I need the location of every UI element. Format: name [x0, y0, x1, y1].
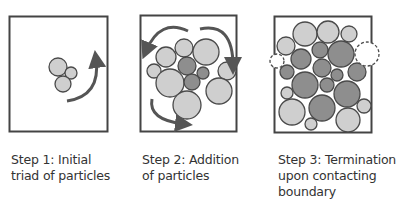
- boundary-contact-particle: [270, 54, 284, 68]
- particle: [156, 47, 176, 67]
- particle: [277, 37, 295, 55]
- particle: [184, 74, 200, 90]
- particle: [305, 118, 317, 130]
- step3-panel: [270, 17, 379, 133]
- step1-caption: Step 1: Initial triad of particles: [11, 152, 110, 184]
- particle: [173, 91, 201, 119]
- caption-line: boundary: [278, 184, 396, 200]
- caption-line: triad of particles: [11, 168, 110, 184]
- particle: [328, 41, 354, 67]
- particle: [280, 65, 294, 79]
- step2-caption: Step 2: Addition of particles: [142, 152, 239, 184]
- particle: [317, 21, 339, 43]
- particle: [331, 69, 343, 81]
- particle: [281, 87, 293, 99]
- particle: [334, 81, 360, 107]
- particle: [279, 99, 305, 125]
- particle: [193, 39, 219, 65]
- particle: [206, 78, 232, 104]
- caption-line: Step 1: Initial: [11, 152, 110, 168]
- particle: [336, 108, 360, 132]
- particle: [175, 39, 193, 57]
- particle: [291, 49, 311, 69]
- particle: [309, 95, 335, 121]
- particle: [55, 76, 71, 92]
- caption-line: of particles: [142, 168, 239, 184]
- particle: [341, 26, 357, 42]
- caption-line: Step 2: Addition: [142, 152, 239, 168]
- step3-caption: Step 3: Termination upon contacting boun…: [278, 152, 396, 200]
- step2-panel: [141, 16, 237, 132]
- step1-panel: [10, 17, 108, 132]
- particle: [320, 78, 334, 92]
- particle: [49, 58, 67, 76]
- particle: [292, 72, 318, 98]
- caption-line: upon contacting: [278, 168, 396, 184]
- particle: [178, 57, 196, 75]
- rotation-arrow-icon: [67, 59, 97, 101]
- particle: [312, 42, 328, 58]
- particle: [293, 22, 317, 46]
- particle: [313, 59, 331, 77]
- particle: [357, 99, 371, 113]
- boundary-contact-particle: [355, 42, 379, 66]
- caption-line: Step 3: Termination: [278, 152, 396, 168]
